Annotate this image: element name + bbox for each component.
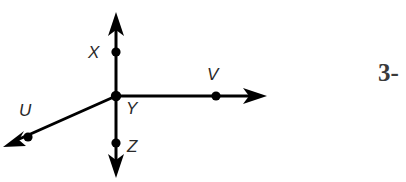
point-label-z: Z: [126, 137, 138, 156]
ray-diagram-figure: X V Z U Y: [0, 0, 406, 182]
point-label-y: Y: [126, 99, 139, 118]
figure-background: [0, 0, 406, 182]
point-dot-x: [111, 47, 120, 56]
point-label-u: U: [19, 101, 32, 120]
point-dot-u: [23, 132, 32, 141]
page-number-marker: 3-: [378, 60, 399, 85]
point-dot-v: [211, 91, 220, 100]
point-label-x: X: [87, 43, 100, 62]
point-dot-y-origin: [111, 91, 121, 101]
point-label-v: V: [207, 65, 220, 84]
point-dot-z: [111, 138, 120, 147]
